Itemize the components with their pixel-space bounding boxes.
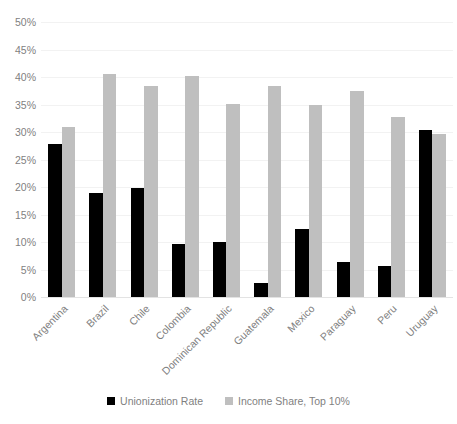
y-tick-label: 25% <box>0 154 36 165</box>
bar-chile-unionization-rate <box>131 188 145 297</box>
bar-guatemala-income-share-top-10- <box>268 86 282 297</box>
bar-paraguay-income-share-top-10- <box>350 91 364 297</box>
bar-colombia-unionization-rate <box>172 244 186 297</box>
legend-label: Unionization Rate <box>120 396 203 407</box>
x-axis: ArgentinaBrazilChileColombiaDominican Re… <box>41 297 453 387</box>
y-tick-label: 30% <box>0 127 36 138</box>
bar-colombia-income-share-top-10- <box>185 76 199 297</box>
chart-legend: Unionization RateIncome Share, Top 10% <box>0 396 457 407</box>
bar-uruguay-income-share-top-10- <box>432 134 446 297</box>
y-tick-label: 50% <box>0 17 36 28</box>
bar-group <box>48 22 75 297</box>
y-tick-label: 35% <box>0 99 36 110</box>
bar-argentina-income-share-top-10- <box>62 127 76 297</box>
bar-group <box>89 22 116 297</box>
y-tick-label: 40% <box>0 72 36 83</box>
bar-brazil-income-share-top-10- <box>103 74 117 297</box>
bar-group <box>131 22 158 297</box>
legend-label: Income Share, Top 10% <box>238 396 350 407</box>
bar-argentina-unionization-rate <box>48 144 62 297</box>
bar-group <box>213 22 240 297</box>
bar-group <box>419 22 446 297</box>
y-tick-label: 10% <box>0 237 36 248</box>
plot-area <box>41 22 453 297</box>
legend-item[interactable]: Income Share, Top 10% <box>225 396 350 407</box>
bar-mexico-income-share-top-10- <box>309 105 323 298</box>
bar-chile-income-share-top-10- <box>144 86 158 297</box>
bar-dominican-republic-unionization-rate <box>213 242 227 297</box>
legend-swatch-unionization-rate <box>107 397 115 405</box>
y-tick-label: 15% <box>0 209 36 220</box>
bar-group <box>337 22 364 297</box>
bar-group <box>378 22 405 297</box>
bar-mexico-unionization-rate <box>295 229 309 297</box>
bar-chart: 50%45%40%35%30%25%20%15%10%5%0% Argentin… <box>0 0 457 424</box>
bar-group <box>295 22 322 297</box>
bar-dominican-republic-income-share-top-10- <box>226 104 240 297</box>
bar-group <box>254 22 281 297</box>
bar-paraguay-unionization-rate <box>337 262 351 297</box>
bar-guatemala-unionization-rate <box>254 283 268 297</box>
bars-layer <box>41 22 453 297</box>
y-tick-label: 45% <box>0 44 36 55</box>
bar-group <box>172 22 199 297</box>
bar-brazil-unionization-rate <box>89 193 103 297</box>
bar-peru-unionization-rate <box>378 266 392 297</box>
legend-item[interactable]: Unionization Rate <box>107 396 203 407</box>
bar-peru-income-share-top-10- <box>391 117 405 297</box>
bar-uruguay-unionization-rate <box>419 130 433 297</box>
legend-swatch-income-share <box>225 397 233 405</box>
y-tick-label: 20% <box>0 182 36 193</box>
y-tick-label: 5% <box>0 264 36 275</box>
y-tick-label: 0% <box>0 292 36 303</box>
